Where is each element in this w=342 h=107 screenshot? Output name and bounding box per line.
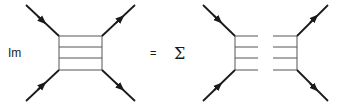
arrow-icon <box>214 86 219 91</box>
unitarity-equation: Im = Σ <box>0 0 342 107</box>
arrow-icon <box>116 83 121 88</box>
arrow-icon <box>116 18 121 23</box>
arrow-icon <box>214 16 219 21</box>
cut-ladder-diagram-right <box>203 5 328 101</box>
arrow-icon <box>38 85 43 90</box>
ladder-diagram-left <box>26 5 135 101</box>
feynman-diagrams <box>0 0 342 107</box>
right-half-ladder <box>273 36 297 70</box>
left-half-ladder <box>235 36 258 70</box>
arrow-icon <box>310 18 315 23</box>
arrow-icon <box>310 83 315 88</box>
arrow-icon <box>38 17 43 22</box>
ladder-box <box>59 36 102 70</box>
